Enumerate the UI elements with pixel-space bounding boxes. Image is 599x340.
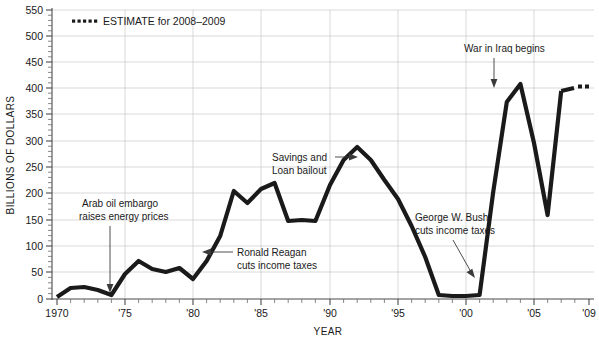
y-axis-tick-labels: 550 500 450 400 350 300 250 200 150 100 … [25, 4, 43, 305]
chart-screenshot: 550 500 450 400 350 300 250 200 150 100 … [0, 0, 599, 340]
y-tick-200: 200 [25, 187, 43, 199]
arrowhead-icon [467, 269, 476, 278]
y-tick-150: 150 [25, 214, 43, 226]
y-axis-minor-ticks [48, 15, 52, 293]
x-tick-1980: '80 [186, 307, 200, 319]
annotation-war-in-iraq: War in Iraq begins [464, 43, 545, 88]
x-tick-1990: '90 [323, 307, 337, 319]
y-tick-50: 50 [31, 266, 43, 278]
x-axis-tick-labels: 1970 '75 '80 '85 '90 '95 '00 '05 '09 [45, 307, 596, 319]
annotation-george-w-bush-line1: George W. Bush [415, 212, 488, 223]
x-tick-1995: '95 [391, 307, 405, 319]
annotation-savings-loan-line2: Loan bailout [272, 165, 327, 176]
annotation-savings-loan-bailout: Savings and Loan bailout [272, 152, 358, 176]
legend-dotted-swatch [72, 20, 97, 23]
x-tick-2000: '00 [459, 307, 473, 319]
y-axis-title: BILLIONS OF DOLLARS [5, 96, 16, 215]
y-tick-300: 300 [25, 135, 43, 147]
x-tick-1985: '85 [254, 307, 268, 319]
annotation-ronald-reagan: Ronald Reagan cuts income taxes [202, 247, 317, 271]
y-tick-500: 500 [25, 30, 43, 42]
y-tick-100: 100 [25, 240, 43, 252]
legend-label-estimate: ESTIMATE for 2008–2009 [103, 15, 226, 27]
x-tick-1970: 1970 [45, 307, 69, 319]
annotation-ronald-reagan-line2: cuts income taxes [237, 260, 317, 271]
annotation-savings-loan-line1: Savings and [272, 152, 327, 163]
arrowhead-icon [491, 79, 498, 88]
y-tick-450: 450 [25, 56, 43, 68]
y-tick-250: 250 [25, 161, 43, 173]
x-tick-2005: '05 [527, 307, 541, 319]
x-tick-1975: '75 [118, 307, 132, 319]
x-tick-2009: '09 [582, 307, 596, 319]
annotation-ronald-reagan-line1: Ronald Reagan [237, 247, 307, 258]
y-tick-0: 0 [37, 293, 43, 305]
annotation-war-in-iraq-line1: War in Iraq begins [464, 43, 545, 54]
annotation-arab-oil-embargo-line1: Arab oil embargo [82, 198, 159, 209]
x-axis-major-ticks [57, 299, 589, 305]
legend: ESTIMATE for 2008–2009 [72, 15, 226, 27]
x-axis-title: YEAR [314, 326, 343, 337]
y-tick-400: 400 [25, 82, 43, 94]
annotation-arab-oil-embargo-line2: raises energy prices [79, 211, 168, 222]
y-tick-350: 350 [25, 108, 43, 120]
x-axis-minor-ticks [71, 299, 575, 303]
annotation-george-w-bush-line2: cuts income taxes [415, 225, 495, 236]
y-tick-550: 550 [25, 4, 43, 16]
arrowhead-icon [349, 154, 358, 161]
y-axis-major-ticks [46, 10, 52, 299]
deficit-line-chart: 550 500 450 400 350 300 250 200 150 100 … [0, 0, 599, 340]
arrowhead-icon [202, 249, 211, 256]
